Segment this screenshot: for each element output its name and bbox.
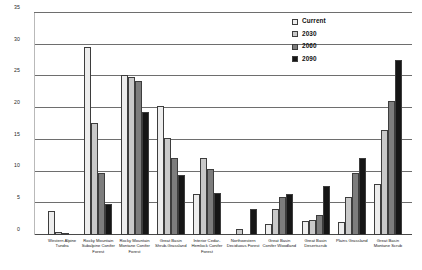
y-axis-tick-label: 35 [0, 5, 20, 10]
bar-group [225, 13, 261, 235]
bar [359, 158, 366, 235]
bar [55, 232, 62, 235]
y-axis-tick-label: 5 [0, 195, 20, 200]
bar [323, 186, 330, 235]
bar [250, 209, 257, 235]
bar [395, 60, 402, 235]
bar [98, 173, 105, 235]
legend-swatch-icon [292, 31, 298, 37]
bar [309, 220, 316, 235]
bar-group [153, 13, 189, 235]
bar-group [80, 13, 116, 235]
chart-legend: Current203020602090 [292, 18, 326, 63]
bar [164, 138, 171, 235]
bar [121, 75, 128, 235]
bar-group [44, 13, 80, 235]
legend-swatch-icon [292, 19, 298, 25]
legend-swatch-icon [292, 56, 298, 62]
x-axis-label: Great Basin Shrub-Grassland [153, 238, 189, 268]
legend-item[interactable]: 2060 [292, 43, 326, 50]
x-axis-label: Rocky Mountain Montane Conifer Forest [116, 238, 152, 268]
bar-chart: 05101520253035 Western Alpine TundraRock… [0, 0, 422, 270]
bar [214, 193, 221, 235]
y-axis-tick-label: 0 [0, 227, 20, 232]
bar [142, 112, 149, 235]
bar [48, 211, 55, 235]
x-axis-label: Great Basin Montane Scrub [370, 238, 406, 268]
bar-group [189, 13, 225, 235]
bar [62, 233, 69, 235]
bar [105, 204, 112, 235]
bar [338, 222, 345, 235]
bar [200, 158, 207, 235]
y-axis-tick-label: 20 [0, 100, 20, 105]
bar-groups [34, 13, 412, 235]
bar [374, 184, 381, 235]
x-axis-label: Plains Grassland [334, 238, 370, 268]
bar [171, 158, 178, 235]
x-axis-label: Great Basin Conifer Woodland [261, 238, 297, 268]
bar [236, 229, 243, 235]
bar [178, 175, 185, 235]
bar [207, 169, 214, 235]
bar [135, 81, 142, 235]
legend-swatch-icon [292, 44, 298, 50]
bar [352, 173, 359, 235]
bar [157, 106, 164, 235]
bar [272, 209, 279, 235]
bar [279, 197, 286, 235]
legend-item[interactable]: Current [292, 18, 326, 25]
y-axis-tick-label: 30 [0, 37, 20, 42]
x-axis-label: Great Basin Desertscrub [297, 238, 333, 268]
x-axis-labels: Western Alpine TundraRocky Mountain Suba… [34, 238, 412, 268]
x-axis-label: Interior Cedar-Hemlock Conifer Forest [189, 238, 225, 268]
legend-item-label: 2090 [302, 56, 317, 62]
bar [91, 123, 98, 235]
legend-item[interactable]: 2030 [292, 31, 326, 38]
legend-item-label: Current [302, 18, 326, 24]
legend-item-label: 2060 [302, 43, 317, 49]
bar [316, 215, 323, 235]
y-axis-tick-label: 10 [0, 164, 20, 169]
x-axis-label: Rocky Mountain Subalpine Conifer Forest [80, 238, 116, 268]
legend-item-label: 2030 [302, 31, 317, 37]
bar [381, 130, 388, 235]
x-axis-label: Western Alpine Tundra [44, 238, 80, 268]
bar [286, 194, 293, 235]
legend-item[interactable]: 2090 [292, 56, 326, 63]
bar-group [334, 13, 370, 235]
bar [265, 224, 272, 235]
bar [302, 221, 309, 235]
plot-area: 05101520253035 [34, 13, 412, 235]
y-axis-tick-label: 25 [0, 69, 20, 74]
bar [193, 194, 200, 235]
bar [388, 101, 395, 235]
bar [84, 47, 91, 235]
bar [128, 77, 135, 235]
y-axis-tick-label: 15 [0, 132, 20, 137]
bar-group [370, 13, 406, 235]
bar [345, 197, 352, 235]
bar-group [116, 13, 152, 235]
x-axis-label: Northwestern Deciduous Forest [225, 238, 261, 268]
